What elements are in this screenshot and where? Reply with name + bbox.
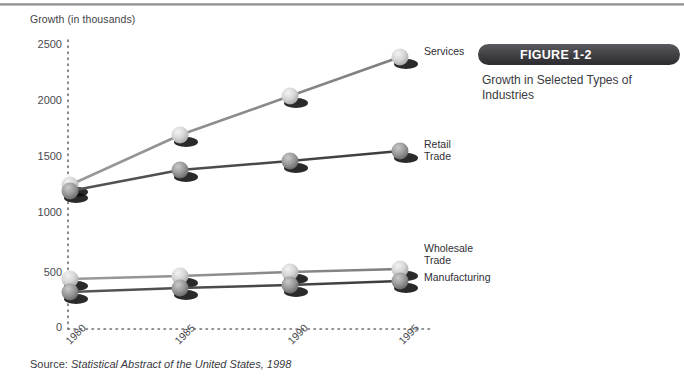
series-label-retail-trade: Retail Trade — [424, 139, 470, 162]
series-label-wholesale-trade: Wholesale Trade — [424, 243, 473, 266]
data-point — [172, 162, 189, 179]
figure-number-badge: FIGURE 1-2 — [478, 44, 680, 65]
data-point — [392, 143, 409, 160]
data-point — [392, 273, 409, 290]
figure-page: Growth (in thousands) 2500 2000 1500 100… — [0, 0, 684, 378]
figure-number-label: FIGURE 1-2 — [520, 48, 592, 62]
line-chart: Growth (in thousands) 2500 2000 1500 100… — [0, 0, 470, 355]
series-services — [62, 49, 419, 198]
y-tick-label: 1500 — [26, 150, 62, 162]
series-retail-trade — [62, 143, 419, 204]
y-tick-label: 1000 — [26, 206, 62, 218]
data-point — [282, 277, 299, 294]
data-point — [172, 280, 189, 297]
y-tick-label: 0 — [26, 321, 62, 333]
figure-caption-text: Growth in Selected Types of Industries — [478, 73, 680, 103]
data-point — [62, 284, 79, 301]
series-label-manufacturing: Manufacturing — [424, 272, 491, 284]
y-axis-title: Growth (in thousands) — [30, 13, 135, 25]
source-note: Source: Statistical Abstract of the Unit… — [30, 358, 291, 370]
source-citation: Statistical Abstract of the United State… — [71, 358, 291, 370]
data-point — [282, 153, 299, 170]
data-point — [282, 88, 299, 105]
data-point — [62, 183, 79, 200]
source-prefix: Source: — [30, 358, 68, 370]
chart-plot-area — [0, 0, 470, 355]
y-tick-label: 2000 — [26, 94, 62, 106]
data-point — [172, 127, 189, 144]
y-tick-label: 2500 — [26, 38, 62, 50]
figure-caption-block: FIGURE 1-2 Growth in Selected Types of I… — [478, 44, 680, 103]
series-label-services: Services — [424, 46, 464, 58]
data-point — [392, 49, 409, 66]
y-tick-label: 500 — [26, 266, 62, 278]
